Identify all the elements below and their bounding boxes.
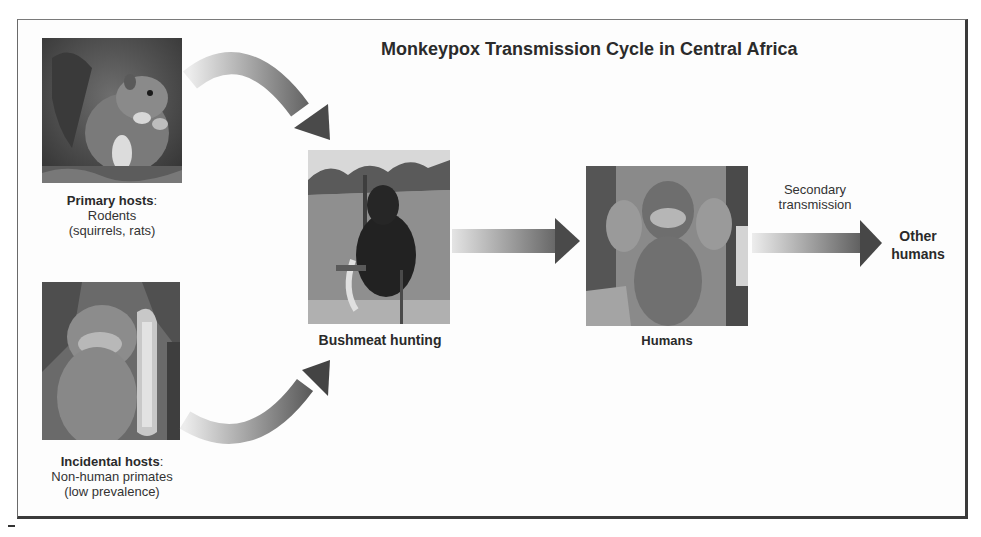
primary-hosts-label: Primary hosts: Rodents (squirrels, rats) (42, 193, 182, 238)
incidental-hosts-label: Incidental hosts: Non-human primates (lo… (28, 454, 196, 499)
humans-label: Humans (586, 333, 748, 348)
monkey-photo (42, 282, 180, 440)
primary-hosts-type: Rodents (42, 208, 182, 223)
incidental-hosts-type: Non-human primates (28, 469, 196, 484)
other-humans-label: Other humans (878, 227, 958, 263)
bushmeat-hunting-label: Bushmeat hunting (300, 332, 460, 348)
secondary-transmission-label: Secondary transmission (760, 182, 870, 212)
primary-hosts-heading: Primary hosts (67, 193, 154, 208)
diagram-title: Monkeypox Transmission Cycle in Central … (381, 39, 797, 60)
hunted-animal-photo (308, 150, 450, 324)
incidental-hosts-heading: Incidental hosts (61, 454, 160, 469)
squirrel-photo (42, 38, 182, 183)
child-with-lesions-photo (586, 166, 748, 326)
primary-hosts-examples: (squirrels, rats) (42, 223, 182, 238)
incidental-hosts-prevalence: (low prevalence) (28, 484, 196, 499)
stray-dash-mark (8, 525, 15, 527)
